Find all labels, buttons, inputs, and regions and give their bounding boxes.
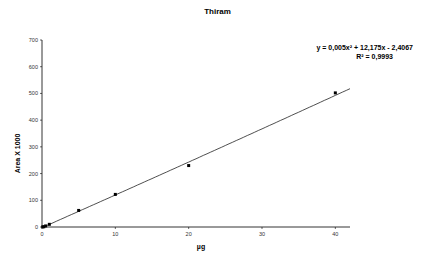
x-tick-label: 20 bbox=[186, 231, 192, 237]
y-tick-label: 500 bbox=[29, 90, 38, 96]
trendline bbox=[46, 89, 350, 226]
data-point bbox=[77, 209, 80, 212]
x-tick-label: 10 bbox=[112, 231, 118, 237]
data-point bbox=[48, 223, 51, 226]
data-point bbox=[334, 91, 337, 94]
y-tick-label: 100 bbox=[29, 197, 38, 203]
data-point bbox=[114, 193, 117, 196]
data-point bbox=[44, 224, 47, 227]
data-point bbox=[187, 164, 190, 167]
y-axis-label: Area X 1000 bbox=[14, 134, 21, 174]
x-tick-label: 40 bbox=[332, 231, 338, 237]
y-tick-label: 600 bbox=[29, 64, 38, 70]
y-tick-label: 700 bbox=[29, 37, 38, 43]
x-axis-label: µg bbox=[197, 243, 205, 251]
x-tick-label: 0 bbox=[40, 231, 43, 237]
y-tick-label: 300 bbox=[29, 144, 38, 150]
x-tick-label: 30 bbox=[259, 231, 265, 237]
scatter-plot: 0100200300400500600700010203040µgArea X … bbox=[0, 0, 435, 262]
y-tick-label: 400 bbox=[29, 117, 38, 123]
y-tick-label: 0 bbox=[35, 224, 38, 230]
y-tick-label: 200 bbox=[29, 171, 38, 177]
